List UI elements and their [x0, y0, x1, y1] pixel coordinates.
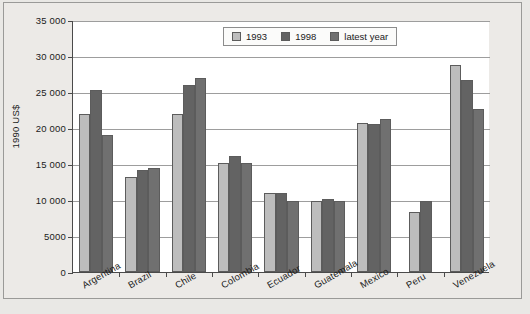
legend-swatch	[281, 32, 290, 41]
y-axis-tick-labels: 0500010 00015 00020 00025 00030 00035 00…	[4, 21, 66, 273]
bar	[473, 109, 485, 272]
legend-swatch	[232, 32, 241, 41]
x-axis-tick	[351, 273, 352, 277]
x-axis-tick	[444, 273, 445, 277]
bar	[172, 114, 184, 272]
bar	[420, 201, 432, 272]
bar	[264, 193, 276, 272]
chart-legend: 19931998latest year	[223, 27, 397, 46]
bar-group	[212, 20, 258, 272]
bar-group	[397, 20, 443, 272]
plot-area	[72, 21, 489, 273]
legend-label: 1998	[295, 31, 316, 42]
bar	[102, 135, 114, 272]
bar	[218, 163, 230, 272]
bar-group	[351, 20, 397, 272]
legend-label: latest year	[344, 31, 388, 42]
bar	[409, 212, 421, 272]
y-axis-tick-label: 25 000	[10, 87, 66, 98]
bar	[90, 90, 102, 272]
scanned-page: 1990 US$ 0500010 00015 00020 00025 00030…	[0, 0, 530, 314]
legend-label: 1993	[246, 31, 267, 42]
y-axis-tick-label: 10 000	[10, 195, 66, 206]
x-axis-tick	[305, 273, 306, 277]
x-axis-tick	[212, 273, 213, 277]
legend-entry: 1993	[232, 31, 267, 42]
x-axis-tick	[258, 273, 259, 277]
bar-group	[119, 20, 165, 272]
bar	[368, 124, 380, 272]
bar	[461, 80, 473, 272]
bar	[357, 123, 369, 272]
bar-group	[444, 20, 490, 272]
bar	[380, 119, 392, 272]
bar-group	[305, 20, 351, 272]
bar	[183, 85, 195, 272]
bar	[229, 156, 241, 272]
y-axis-tick-label: 20 000	[10, 123, 66, 134]
y-axis-tick	[68, 273, 73, 274]
legend-swatch	[330, 32, 339, 41]
bar	[311, 201, 323, 272]
x-axis-tick	[119, 273, 120, 277]
y-axis-tick-label: 15 000	[10, 159, 66, 170]
bar	[148, 168, 160, 272]
y-axis-tick-label: 30 000	[10, 51, 66, 62]
bar-group	[166, 20, 212, 272]
x-axis-tick	[166, 273, 167, 277]
x-axis-tick	[397, 273, 398, 277]
bar	[241, 163, 253, 272]
bar	[195, 78, 207, 272]
x-axis-label: Peru	[404, 271, 428, 291]
y-axis-tick-label: 5000	[10, 231, 66, 242]
chart-frame: 1990 US$ 0500010 00015 00020 00025 00030…	[3, 2, 522, 299]
bar	[125, 177, 137, 272]
bar-group	[258, 20, 304, 272]
legend-entry: 1998	[281, 31, 316, 42]
bar	[287, 201, 299, 272]
footnote-text	[8, 306, 508, 314]
bar	[322, 199, 334, 272]
bar	[137, 170, 149, 272]
bar	[276, 193, 288, 272]
y-axis-tick-label: 35 000	[10, 15, 66, 26]
legend-entry: latest year	[330, 31, 388, 42]
bar-group	[73, 20, 119, 272]
y-axis-tick-label: 0	[10, 267, 66, 278]
bar	[450, 65, 462, 272]
bar	[79, 114, 91, 272]
